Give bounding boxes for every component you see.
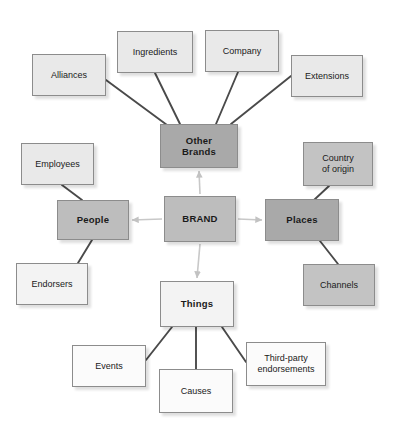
leaf-node-events[interactable]: Events	[72, 345, 146, 387]
leaf-node-causes[interactable]: Causes	[159, 369, 233, 413]
node-label-things: Things	[179, 298, 215, 309]
leaf-node-endorsers[interactable]: Endorsers	[16, 263, 88, 305]
leaf-node-country-of-origin[interactable]: Country of origin	[303, 142, 373, 186]
category-node-places[interactable]: Places	[265, 199, 339, 241]
node-label-other-brands: Other Brands	[180, 135, 218, 157]
category-node-other-brands[interactable]: Other Brands	[160, 124, 238, 168]
leaf-node-channels[interactable]: Channels	[303, 264, 375, 306]
leaf-node-ingredients[interactable]: Ingredients	[117, 31, 193, 73]
leaf-node-company[interactable]: Company	[205, 30, 279, 72]
spoke-events	[146, 327, 172, 360]
node-label-country-of-origin: Country of origin	[320, 153, 356, 174]
leaf-node-third-party-endorsements[interactable]: Third-party endorsements	[246, 342, 326, 386]
hub-node-brand[interactable]: BRAND	[164, 196, 236, 242]
node-label-employees: Employees	[33, 159, 82, 170]
spoke-company	[216, 72, 238, 124]
node-label-people: People	[75, 214, 111, 225]
category-node-people[interactable]: People	[57, 200, 129, 240]
node-label-brand: BRAND	[180, 213, 219, 224]
category-node-things[interactable]: Things	[160, 281, 234, 327]
node-label-channels: Channels	[318, 280, 360, 291]
spoke-country	[314, 186, 329, 200]
node-label-alliances: Alliances	[49, 70, 89, 81]
spoke-alliances	[106, 80, 167, 125]
leaf-node-alliances[interactable]: Alliances	[32, 54, 106, 96]
arrow-brand-to-other-brands	[199, 171, 200, 194]
node-label-extensions: Extensions	[303, 71, 351, 82]
node-label-third-party-endorsements: Third-party endorsements	[255, 353, 316, 374]
spoke-endorsers	[78, 240, 92, 263]
leaf-node-extensions[interactable]: Extensions	[291, 55, 363, 97]
spoke-ingredients	[155, 73, 180, 124]
arrow-brand-to-things	[197, 244, 200, 278]
spoke-employees	[62, 185, 82, 200]
node-label-endorsers: Endorsers	[29, 279, 74, 290]
arrow-brand-to-places	[238, 219, 262, 220]
node-label-events: Events	[93, 361, 125, 372]
spoke-third-party	[222, 327, 246, 362]
brand-associations-diagram: BRANDOther BrandsPeoplePlacesThingsAllia…	[0, 0, 399, 443]
spoke-extensions	[231, 76, 291, 124]
node-label-places: Places	[284, 214, 319, 225]
leaf-node-employees[interactable]: Employees	[21, 143, 94, 185]
arrow-brand-to-people	[132, 219, 162, 220]
node-label-causes: Causes	[179, 386, 214, 397]
spoke-channels	[320, 241, 338, 264]
node-label-company: Company	[221, 46, 264, 57]
node-label-ingredients: Ingredients	[131, 47, 180, 58]
